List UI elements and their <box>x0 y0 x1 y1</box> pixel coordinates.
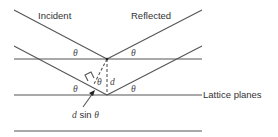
incident-ray-2 <box>14 46 107 95</box>
bragg-diagram: Incident Reflected Lattice planes θ θ θ … <box>0 0 278 137</box>
theta-label-reflected-bottom: θ <box>131 84 136 94</box>
theta-label-incident-bottom: θ <box>73 84 78 94</box>
right-angle-marker <box>85 72 94 81</box>
lattice-planes-label: Lattice planes <box>203 89 262 100</box>
theta-label-inner: θ <box>97 77 102 87</box>
theta-label-reflected-top: θ <box>131 48 136 58</box>
incident-label: Incident <box>38 10 72 21</box>
theta-label-incident-top: θ <box>73 48 78 58</box>
reflected-label: Reflected <box>131 10 171 21</box>
path-difference-label: d sin θ <box>72 109 99 120</box>
reflected-ray-2 <box>107 46 202 95</box>
spacing-d-label: d <box>110 77 115 87</box>
vertex-dot <box>106 58 109 61</box>
